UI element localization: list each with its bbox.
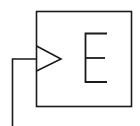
input-wire: [13, 59, 37, 126]
block-body: [37, 12, 132, 107]
logic-block-diagram: [0, 0, 140, 126]
